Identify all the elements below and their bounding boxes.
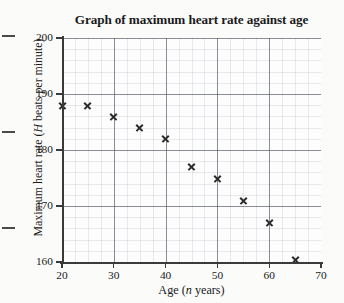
data-point-marker — [239, 196, 248, 205]
chart-title: Graph of maximum heart rate against age — [62, 12, 321, 28]
x-tick — [61, 262, 62, 268]
x-tick — [165, 262, 166, 268]
x-tick-label: 20 — [47, 269, 77, 281]
plot-area — [62, 38, 321, 262]
y-tick — [56, 149, 63, 150]
data-point-marker — [161, 134, 170, 143]
data-point-marker — [83, 101, 92, 110]
x-tick — [113, 262, 114, 268]
x-tick-label: 50 — [202, 269, 232, 281]
data-point-marker — [213, 174, 222, 183]
page-edge-mark — [2, 131, 15, 133]
y-tick — [56, 205, 63, 206]
data-point-marker — [265, 218, 274, 227]
x-tick-label: 30 — [99, 269, 129, 281]
x-tick — [320, 262, 321, 268]
x-axis-title: Age (n years) — [62, 283, 321, 298]
x-tick — [269, 262, 270, 268]
x-tick-label: 70 — [306, 269, 336, 281]
y-tick — [56, 37, 63, 38]
data-point-marker — [109, 112, 118, 121]
y-tick-label: 160 — [19, 255, 53, 267]
x-tick-label: 60 — [254, 269, 284, 281]
x-axis-line — [60, 262, 323, 264]
data-point-marker — [135, 123, 144, 132]
page-edge-mark — [2, 227, 15, 229]
x-tick — [217, 262, 218, 268]
x-tick-label: 40 — [151, 269, 181, 281]
page-edge-mark — [2, 35, 15, 37]
chart-page: Graph of maximum heart rate against age … — [0, 0, 344, 303]
grid-major — [62, 38, 321, 262]
y-tick — [56, 93, 63, 94]
y-axis-title: Maximum heart rate (H beats per minute) — [31, 32, 46, 244]
data-point-marker — [187, 162, 196, 171]
